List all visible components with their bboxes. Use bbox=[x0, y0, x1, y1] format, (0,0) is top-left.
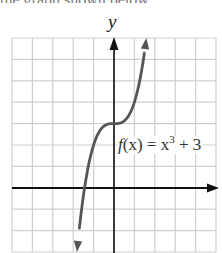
x-axis-arrow-icon bbox=[207, 184, 219, 193]
curve-bottom-arrow-icon bbox=[74, 241, 82, 252]
function-label: f(x) = x3 + 3 bbox=[117, 136, 202, 154]
function-suffix: + 3 bbox=[175, 135, 202, 154]
y-axis-label: y bbox=[108, 11, 116, 33]
function-arg: (x) = x bbox=[123, 135, 169, 154]
function-graph bbox=[0, 0, 222, 253]
curve-top-arrow-icon bbox=[141, 38, 149, 49]
y-axis-arrow-icon bbox=[110, 37, 119, 50]
